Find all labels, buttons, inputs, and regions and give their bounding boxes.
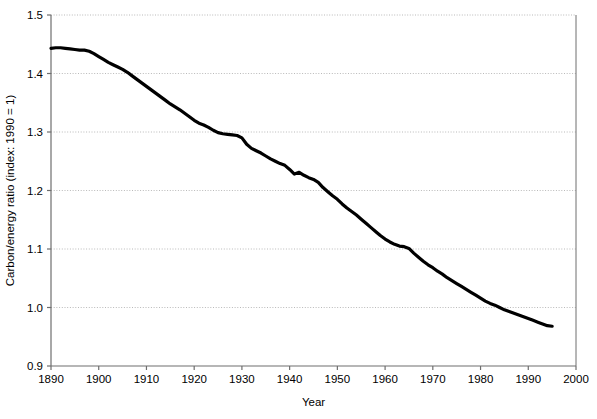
x-tick-label-1950: 1950: [325, 373, 351, 385]
x-tick-label-1930: 1930: [229, 373, 255, 385]
x-tick-label-1900: 1900: [86, 373, 112, 385]
x-tick-label-1910: 1910: [134, 373, 160, 385]
x-tick-label-1960: 1960: [372, 373, 398, 385]
x-tick-label-2000: 2000: [563, 373, 589, 385]
x-tick-label-1940: 1940: [277, 373, 303, 385]
y-tick-label-1.1: 1.1: [27, 243, 43, 255]
y-tick-label-0.9: 0.9: [27, 360, 43, 372]
y-axis-ticks-group: 0.91.01.11.21.31.41.5: [27, 9, 51, 372]
y-axis-title: Carbon/energy ratio (index: 1990 = 1): [4, 95, 16, 287]
x-tick-label-1980: 1980: [468, 373, 494, 385]
y-tick-label-1.2: 1.2: [27, 185, 43, 197]
y-tick-label-1.3: 1.3: [27, 126, 43, 138]
y-tick-label-1: 1.0: [27, 302, 43, 314]
x-axis-ticks-group: 1890190019101920193019401950196019701980…: [38, 366, 589, 385]
x-tick-label-1890: 1890: [38, 373, 64, 385]
x-tick-label-1990: 1990: [515, 373, 541, 385]
x-tick-label-1970: 1970: [420, 373, 446, 385]
x-tick-label-1920: 1920: [181, 373, 207, 385]
gridlines-group: [51, 15, 576, 308]
carbon-energy-ratio-line-chart: 1890190019101920193019401950196019701980…: [0, 0, 597, 419]
x-axis-title: Year: [302, 396, 325, 408]
data-series-line: [51, 48, 552, 326]
y-tick-label-1.5: 1.5: [27, 9, 43, 21]
y-tick-label-1.4: 1.4: [27, 68, 44, 80]
chart-container: 1890190019101920193019401950196019701980…: [0, 0, 597, 419]
